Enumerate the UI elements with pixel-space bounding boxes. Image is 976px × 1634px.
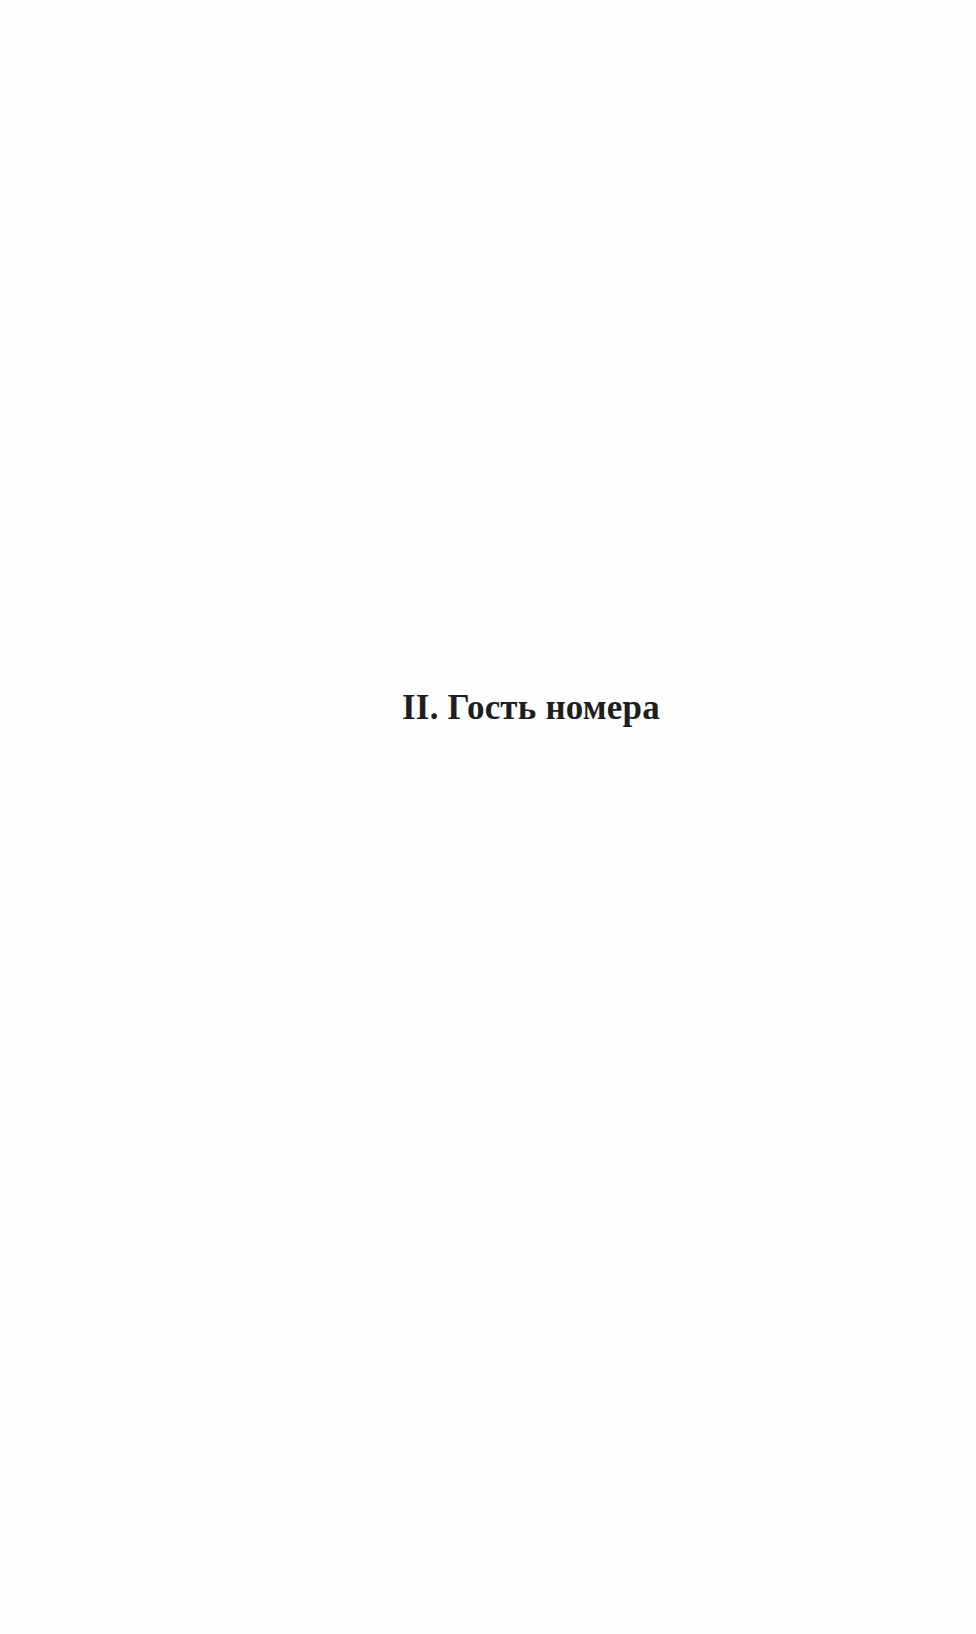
chapter-title: II. Гость номера	[402, 688, 674, 728]
document-page: II. Гость номера	[0, 0, 976, 1634]
